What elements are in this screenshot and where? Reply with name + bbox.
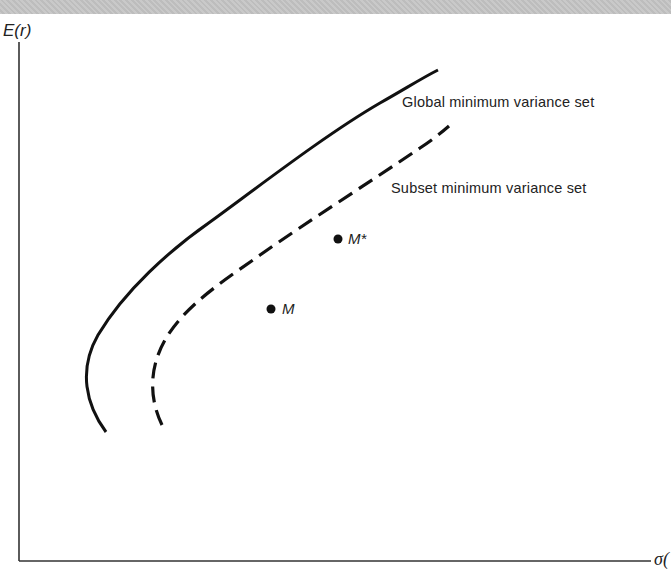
m-star-label: M* [348,230,366,247]
portfolio-m-dot [267,305,276,314]
subset-curve-label: Subset minimum variance set [391,180,587,196]
portfolio-m-star-dot [334,235,343,244]
m-label: M [282,300,295,317]
x-axis-label: σ( [654,549,669,570]
global-curve-label: Global minimum variance set [402,94,594,110]
y-axis-label: E(r) [3,21,31,41]
global-minimum-variance-curve [86,70,438,432]
subset-minimum-variance-curve [153,126,449,425]
